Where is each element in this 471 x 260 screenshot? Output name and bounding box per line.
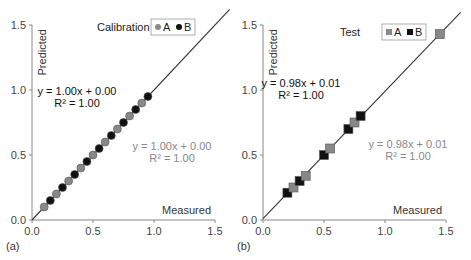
data-point-a: [101, 138, 109, 146]
data-point-b: [95, 145, 103, 153]
data-point-b: [83, 158, 91, 166]
figure: 0.00.51.01.50.00.51.01.5MeasuredPredicte…: [0, 0, 471, 260]
y-tick-label: 1.0: [11, 84, 26, 96]
legend-marker-a: [386, 29, 392, 35]
legend-label-b: B: [184, 21, 191, 33]
y-tick-label: 0.5: [11, 149, 26, 161]
data-point-a: [40, 203, 48, 211]
legend-label-a: A: [163, 21, 171, 33]
chart-title: Test: [340, 26, 360, 38]
data-point-b: [59, 184, 67, 192]
y-tick-label: 1.0: [242, 84, 257, 96]
data-point-b: [144, 93, 152, 101]
data-point-b: [46, 197, 54, 205]
data-point-a: [326, 144, 335, 153]
x-tick-label: 1.5: [438, 225, 453, 237]
x-tick-label: 1.0: [377, 225, 392, 237]
legend-marker-b: [176, 24, 182, 30]
legend: AB: [382, 24, 426, 40]
y-tick-label: 1.5: [242, 19, 257, 31]
x-tick-label: 0.0: [24, 225, 39, 237]
legend: AB: [151, 19, 195, 35]
x-tick-label: 1.5: [207, 225, 222, 237]
chart-panel-a: 0.00.51.01.50.00.51.01.5MeasuredPredicte…: [6, 9, 230, 252]
chart-title: Calibration: [97, 21, 150, 33]
legend-marker-a: [155, 24, 161, 30]
data-point-a: [126, 112, 134, 120]
legend-marker-b: [407, 29, 413, 35]
data-point-a: [301, 171, 310, 180]
y-axis-label: Predicted: [36, 29, 48, 75]
regression-equation: y = 0.98x + 0.01: [262, 77, 341, 89]
legend-label-b: B: [415, 26, 422, 38]
x-tick-label: 0.5: [316, 225, 331, 237]
y-tick-label: 0.0: [242, 214, 257, 226]
data-point-a: [113, 125, 121, 133]
r-squared: R² = 1.00: [54, 97, 100, 109]
r-squared: R² = 1.00: [385, 150, 431, 162]
x-tick-label: 0.5: [85, 225, 100, 237]
y-tick-label: 0.5: [242, 149, 257, 161]
x-tick-label: 1.0: [146, 225, 161, 237]
data-point-b: [356, 112, 365, 121]
panel-label: (b): [237, 240, 250, 252]
y-tick-label: 0.0: [11, 214, 26, 226]
data-point-a: [52, 190, 60, 198]
data-point-b: [120, 119, 128, 127]
legend-label-a: A: [394, 26, 402, 38]
r-squared: R² = 1.00: [278, 89, 324, 101]
x-tick-label: 0.0: [255, 225, 270, 237]
r-squared: R² = 1.00: [149, 152, 195, 164]
data-point-b: [132, 106, 140, 114]
data-point-b: [107, 132, 115, 140]
regression-equation: y = 1.00x + 0.00: [133, 140, 212, 152]
x-axis-label: Measured: [393, 204, 442, 216]
y-tick-label: 1.5: [11, 19, 26, 31]
chart-panel-b: 0.00.51.01.50.00.51.01.5MeasuredPredicte…: [237, 12, 461, 252]
data-point-a: [138, 99, 146, 107]
data-point-a: [65, 177, 73, 185]
data-point-a: [89, 151, 97, 159]
regression-equation: y = 1.00x + 0.00: [38, 85, 117, 97]
data-point-b: [71, 171, 79, 179]
data-point-a: [435, 30, 444, 39]
panel-label: (a): [6, 240, 19, 252]
regression-equation: y = 0.98x + 0.01: [369, 138, 448, 150]
x-axis-label: Measured: [162, 204, 211, 216]
data-point-a: [77, 164, 85, 172]
y-axis-label: Predicted: [267, 29, 279, 75]
